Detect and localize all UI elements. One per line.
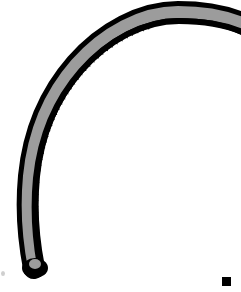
tooth-strip: [35, 21, 241, 266]
teeth-row: [35, 25, 151, 262]
band-tip: [22, 258, 48, 278]
figure-canvas: Serrated arched band specimen illustrati…: [0, 0, 241, 292]
bottom-left-speck-mark: [1, 271, 5, 276]
band-outer-outline: [28, 12, 241, 268]
bottom-right-corner-mark: [222, 277, 231, 286]
band-gray-fill: [28, 12, 241, 268]
serrated-arch-illustration: Serrated arched band specimen illustrati…: [0, 0, 241, 292]
